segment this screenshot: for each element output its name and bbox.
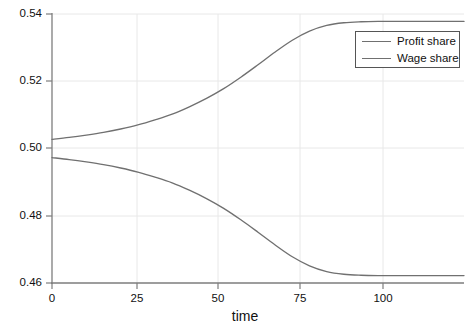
x-tick-label-1: 25 [131, 293, 144, 305]
legend-entry-wage-share: Wage share [356, 50, 461, 67]
x-tick-label-3: 75 [294, 293, 307, 305]
x-axis-ticks [52, 283, 383, 289]
y-tick-label-2: 0.50 [0, 142, 42, 154]
y-tick-label-3: 0.48 [0, 210, 42, 222]
y-tick-label-0: 0.54 [0, 8, 42, 20]
chart-legend: Profit share Wage share [355, 31, 460, 68]
y-axis-ticks [46, 14, 52, 283]
x-tick-label-2: 50 [212, 293, 225, 305]
legend-entry-profit-share: Profit share [356, 33, 461, 50]
legend-swatch-profit-share [362, 41, 391, 42]
legend-label-wage-share: Wage share [397, 53, 459, 65]
x-tick-label-0: 0 [49, 293, 55, 305]
x-tick-label-4: 100 [373, 293, 392, 305]
chart-figure: 0.54 0.52 0.50 0.48 0.46 0 25 50 75 100 … [0, 0, 474, 330]
legend-label-profit-share: Profit share [397, 36, 456, 48]
series-line-wage-share [52, 158, 464, 276]
y-tick-label-4: 0.46 [0, 277, 42, 289]
y-tick-label-1: 0.52 [0, 75, 42, 87]
x-axis-label: time [232, 309, 258, 323]
legend-swatch-wage-share [362, 58, 391, 59]
